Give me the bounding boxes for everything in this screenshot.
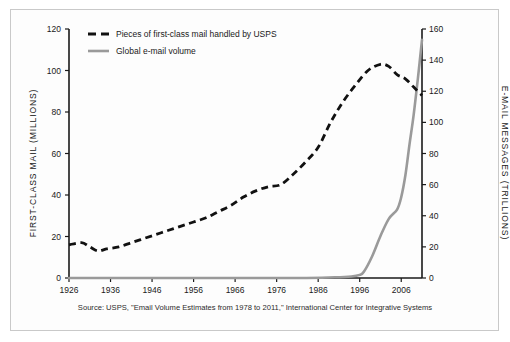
left-tick-20: 20 [35, 232, 61, 242]
x-tick-1946: 1946 [132, 285, 172, 295]
x-tick-2006: 2006 [381, 285, 421, 295]
x-tick-1976: 1976 [257, 285, 297, 295]
x-tick-1966: 1966 [215, 285, 255, 295]
right-tick-140: 140 [429, 55, 455, 65]
right-tick-20: 20 [429, 242, 455, 252]
series-line-first-class-mail [69, 64, 422, 251]
left-axis-title: FIRST-CLASS MAIL (MILLIONS) [28, 73, 38, 253]
legend-label-global-email: Global e-mail volume [116, 46, 196, 56]
right-tick-40: 40 [429, 211, 455, 221]
x-tick-1936: 1936 [91, 285, 131, 295]
left-tick-40: 40 [35, 190, 61, 200]
x-tick-1996: 1996 [340, 285, 380, 295]
left-tick-0: 0 [35, 273, 61, 283]
x-tick-1956: 1956 [174, 285, 214, 295]
right-tick-80: 80 [429, 149, 455, 159]
right-tick-120: 120 [429, 86, 455, 96]
left-tick-80: 80 [35, 107, 61, 117]
series-line-global-email-volume [69, 40, 422, 278]
right-tick-100: 100 [429, 117, 455, 127]
left-tick-120: 120 [35, 24, 61, 34]
right-tick-0: 0 [429, 273, 455, 283]
right-axis-title: E-MAIL MESSAGES (TRILLIONS) [500, 73, 510, 253]
source-note: Source: USPS, "Email Volume Estimates fr… [0, 303, 510, 312]
left-tick-100: 100 [35, 66, 61, 76]
chart-plot-area [11, 10, 498, 330]
legend-label-first-class-mail: Pieces of first-class mail handled by US… [116, 29, 277, 39]
chart-root: FIRST-CLASS MAIL (MILLIONS) E-MAIL MESSA… [0, 0, 510, 342]
chart-frame: FIRST-CLASS MAIL (MILLIONS) E-MAIL MESSA… [10, 9, 499, 331]
x-tick-1926: 1926 [49, 285, 89, 295]
right-tick-60: 60 [429, 180, 455, 190]
right-tick-160: 160 [429, 24, 455, 34]
left-tick-60: 60 [35, 149, 61, 159]
x-tick-1986: 1986 [298, 285, 338, 295]
